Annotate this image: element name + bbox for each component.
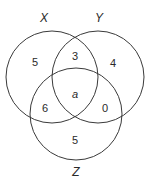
set-label-x: X <box>39 11 49 25</box>
venn-diagram: X Y Z 5 3 4 a 6 0 5 <box>0 0 149 185</box>
region-x-and-y-only: 3 <box>72 50 78 62</box>
region-x-y-z: a <box>72 88 78 100</box>
set-label-z: Z <box>71 165 80 179</box>
region-z-only: 5 <box>72 134 78 146</box>
set-label-y: Y <box>95 11 104 25</box>
circle-z <box>30 68 122 160</box>
region-y-only: 4 <box>110 57 116 69</box>
region-x-and-z-only: 6 <box>42 102 48 114</box>
region-y-and-z-only: 0 <box>102 102 108 114</box>
region-x-only: 5 <box>32 56 38 68</box>
